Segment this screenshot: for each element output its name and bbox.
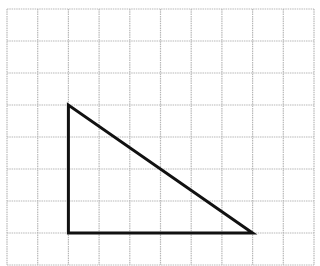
grid-diagram: [0, 0, 320, 266]
grid: [7, 9, 314, 265]
